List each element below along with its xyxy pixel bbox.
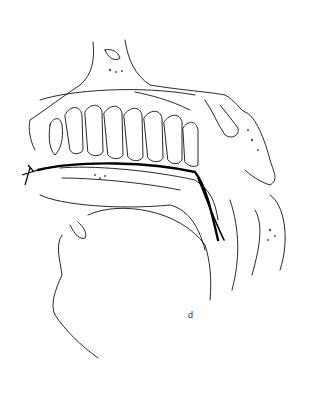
label-d: d bbox=[188, 310, 193, 320]
nasal-cavity-drawing bbox=[0, 0, 313, 414]
